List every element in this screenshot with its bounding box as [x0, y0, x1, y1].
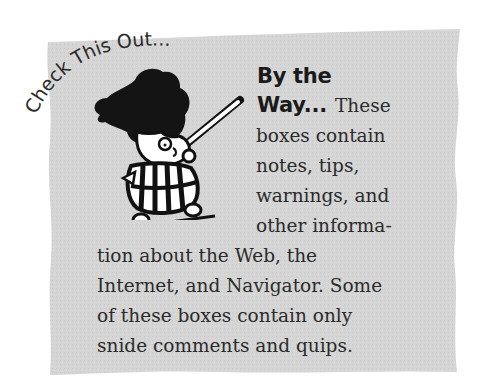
- body-line: tion about the Web, the: [97, 241, 382, 271]
- body-text-right-column: boxes contain notes, tips, warnings, and…: [256, 121, 392, 241]
- body-line: other informa-: [256, 211, 392, 241]
- sidebar-heading: By the Way...: [257, 62, 331, 120]
- body-line: of these boxes contain only: [97, 301, 382, 331]
- body-line: warnings, and: [256, 181, 392, 211]
- body-line: snide comments and quips.: [97, 331, 382, 361]
- body-line: notes, tips,: [256, 151, 392, 181]
- body-line: boxes contain: [256, 121, 392, 151]
- body-line: Internet, and Navigator. Some: [97, 271, 382, 301]
- heading-line-1: By the: [257, 62, 331, 91]
- cartoon-character-icon: [85, 60, 245, 220]
- body-text-full-width: tion about the Web, the Internet, and Na…: [97, 241, 382, 361]
- heading-line-2: Way...: [257, 91, 331, 120]
- by-the-way-sidebar: Check This Out... By the Way... These b: [0, 0, 480, 388]
- body-first-word: These: [335, 91, 391, 121]
